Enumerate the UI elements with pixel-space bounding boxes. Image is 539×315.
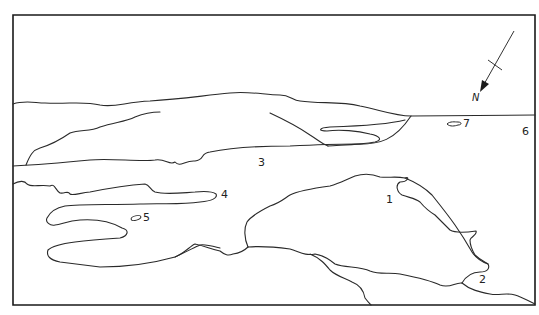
label-7: 7 bbox=[463, 118, 470, 129]
islet-7 bbox=[447, 122, 461, 126]
islet-5 bbox=[131, 215, 142, 222]
southwest-shore bbox=[175, 245, 220, 257]
inlet-central bbox=[321, 120, 405, 146]
label-1: 1 bbox=[386, 194, 393, 205]
label-5: 5 bbox=[143, 212, 150, 223]
north-arrow-icon bbox=[480, 31, 514, 92]
region-2-shore bbox=[462, 283, 535, 304]
label-2: 2 bbox=[479, 274, 486, 285]
label-6: 6 bbox=[522, 126, 529, 137]
north-label: N bbox=[472, 93, 479, 103]
upper-coastline bbox=[13, 92, 535, 116]
peninsula-4 bbox=[13, 181, 248, 267]
river-boundary bbox=[310, 254, 371, 305]
ridge-line-central bbox=[270, 113, 328, 146]
strait-inner-shore bbox=[13, 116, 411, 166]
landmass-1 bbox=[245, 174, 488, 264]
ridge-line-west bbox=[26, 112, 160, 165]
label-3: 3 bbox=[258, 157, 265, 168]
label-4: 4 bbox=[221, 189, 228, 200]
south-boundary-1 bbox=[248, 247, 462, 287]
map-canvas bbox=[0, 0, 539, 315]
